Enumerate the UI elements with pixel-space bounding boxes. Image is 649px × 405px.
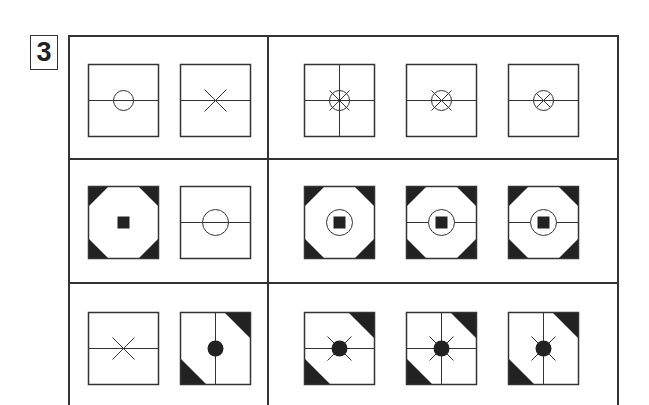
given-figure-row3-1 [88,312,159,385]
option-figure-row3-2 [406,312,477,385]
row-divider-2 [68,282,619,284]
option-figure-row1-1 [304,64,375,137]
given-figure-row1-1 [88,64,159,137]
option-figure-row2-1 [304,186,375,259]
option-figure-row3-3 [508,312,579,385]
option-figure-row1-3 [508,64,579,137]
given-figure-row2-1 [88,186,159,259]
given-options-divider [267,35,269,405]
option-figure-row1-2 [406,64,477,137]
option-figure-row2-2 [406,186,477,259]
given-figure-row3-2 [180,312,251,385]
given-figure-row1-2 [180,64,251,137]
option-figure-row3-1 [304,312,375,385]
given-figure-row2-2 [180,186,251,259]
row-divider-1 [68,158,619,160]
option-figure-row2-3 [508,186,579,259]
puzzle-number-label: 3 [30,35,58,70]
